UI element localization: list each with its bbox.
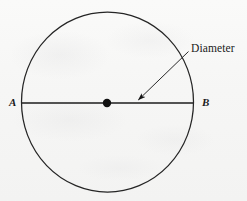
point-label-b: B (202, 97, 209, 108)
figure-line-art (0, 0, 247, 201)
circle-diameter-figure: A B Diameter (0, 0, 247, 201)
diameter-annotation-label: Diameter (191, 43, 235, 55)
circle-center-point (103, 99, 111, 107)
diameter-callout-leader-line (139, 52, 189, 100)
point-label-a: A (9, 97, 16, 108)
